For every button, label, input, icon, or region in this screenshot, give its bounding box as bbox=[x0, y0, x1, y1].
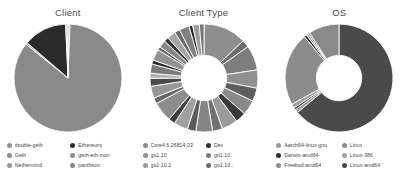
legend-item-label: Linux-386 bbox=[350, 152, 373, 158]
legend-swatch-icon bbox=[143, 163, 148, 168]
legend-item-label: Freebsd-amd64 bbox=[284, 162, 321, 168]
legend-item[interactable]: Aarch64-linux-gnu bbox=[276, 140, 340, 150]
legend-swatch-icon bbox=[342, 153, 347, 158]
legend-item[interactable]: Geth bbox=[7, 150, 69, 160]
legend-swatch-icon bbox=[276, 163, 281, 168]
legend-swatch-icon bbox=[70, 143, 75, 148]
legend-swatch-icon bbox=[70, 163, 75, 168]
legend-os: Aarch64-linux-gnuDarwin-amd64Freebsd-amd… bbox=[273, 140, 405, 170]
chart-panel-client-type: Client Type Core4.6.26814.03go1.10go1.10… bbox=[136, 0, 272, 191]
legend-swatch-icon bbox=[276, 143, 281, 148]
legend-item[interactable]: Dev bbox=[206, 140, 268, 150]
chart-title-client: Client bbox=[55, 7, 81, 19]
legend-item[interactable]: Nethermind bbox=[7, 160, 69, 170]
legend-item[interactable]: go1.10. bbox=[206, 150, 268, 160]
legend-swatch-icon bbox=[70, 153, 75, 158]
donut-chart-client-type bbox=[148, 22, 260, 134]
legend-item-label: Ethereumj bbox=[78, 142, 102, 148]
charts-board: Client double-gethGethNethermindEthereum… bbox=[0, 0, 407, 191]
legend-item-label: Darwin-amd64 bbox=[284, 152, 318, 158]
legend-swatch-icon bbox=[7, 143, 12, 148]
chart-title-os: OS bbox=[332, 7, 346, 19]
legend-swatch-icon bbox=[342, 163, 347, 168]
legend-item[interactable]: Freebsd-amd64 bbox=[276, 160, 340, 170]
legend-item-label: Geth bbox=[15, 152, 26, 158]
legend-item[interactable]: Linux-amd64 bbox=[342, 160, 406, 170]
legend-item-label: double-geth bbox=[15, 142, 43, 148]
legend-swatch-icon bbox=[276, 153, 281, 158]
legend-client: double-gethGethNethermindEthereumjgeth-e… bbox=[4, 140, 132, 170]
legend-item[interactable]: Ethereumj bbox=[70, 140, 132, 150]
legend-item[interactable]: Core4.6.26814.03 bbox=[143, 140, 205, 150]
legend-item-label: pantheon bbox=[78, 162, 100, 168]
chart-panel-os: OS Aarch64-linux-gnuDarwin-amd64Freebsd-… bbox=[271, 0, 407, 191]
legend-item[interactable]: double-geth bbox=[7, 140, 69, 150]
legend-item-label: Core4.6.26814.03 bbox=[151, 142, 193, 148]
legend-item-label: go1.10.: bbox=[214, 162, 233, 168]
legend-item-label: Aarch64-linux-gnu bbox=[284, 142, 327, 148]
legend-swatch-icon bbox=[206, 153, 211, 158]
donut-chart-os bbox=[283, 22, 395, 134]
legend-item[interactable]: Darwin-amd64 bbox=[276, 150, 340, 160]
pie-chart-client bbox=[12, 22, 124, 134]
legend-item-label: Linux-amd64 bbox=[350, 162, 381, 168]
legend-swatch-icon bbox=[7, 153, 12, 158]
legend-item-label: Dev bbox=[214, 142, 223, 148]
legend-client-type: Core4.6.26814.03go1.10go1.10.2Devgo1.10.… bbox=[140, 140, 268, 170]
legend-swatch-icon bbox=[342, 143, 347, 148]
chart-title-client-type: Client Type bbox=[179, 7, 229, 19]
legend-swatch-icon bbox=[143, 143, 148, 148]
legend-item[interactable]: go1.10 bbox=[143, 150, 205, 160]
legend-item-label: geth-eth-mon bbox=[78, 152, 109, 158]
legend-swatch-icon bbox=[206, 143, 211, 148]
donut-svg-os bbox=[283, 22, 395, 134]
legend-item-label: go1.10.2 bbox=[151, 162, 172, 168]
chart-panel-client: Client double-gethGethNethermindEthereum… bbox=[0, 0, 136, 191]
legend-swatch-icon bbox=[143, 153, 148, 158]
legend-item[interactable]: Linux-386 bbox=[342, 150, 406, 160]
donut-svg-client-type bbox=[148, 22, 260, 134]
legend-item-label: Linux bbox=[350, 142, 363, 148]
legend-item-label: go1.10. bbox=[214, 152, 232, 158]
legend-item[interactable]: go1.10.: bbox=[206, 160, 268, 170]
legend-item[interactable]: Linux bbox=[342, 140, 406, 150]
legend-item[interactable]: pantheon bbox=[70, 160, 132, 170]
legend-item[interactable]: geth-eth-mon bbox=[70, 150, 132, 160]
legend-swatch-icon bbox=[7, 163, 12, 168]
legend-item[interactable]: go1.10.2 bbox=[143, 160, 205, 170]
legend-item-label: go1.10 bbox=[151, 152, 167, 158]
legend-item-label: Nethermind bbox=[15, 162, 42, 168]
pie-svg-client bbox=[12, 22, 124, 134]
legend-swatch-icon bbox=[206, 163, 211, 168]
